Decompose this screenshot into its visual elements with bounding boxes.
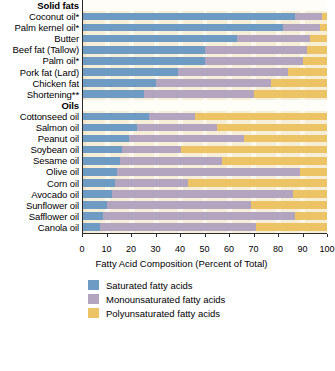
category-label: Palm oil* — [0, 55, 82, 66]
stacked-bar — [83, 168, 327, 176]
bar-row: Avocado oil — [0, 189, 327, 200]
stacked-bar — [83, 24, 327, 32]
category-label: Shortening** — [0, 89, 82, 100]
stacked-bar — [83, 68, 327, 76]
bar-plot-cell — [82, 144, 327, 155]
segment-polyunsaturated — [181, 146, 327, 154]
bar-row: Palm kernel oil* — [0, 22, 327, 33]
category-label: Sesame oil — [0, 155, 82, 166]
segment-saturated — [83, 90, 144, 98]
legend-item: Polyunsaturated fatty acids — [88, 307, 327, 320]
bar-row: Sunflower oil — [0, 200, 327, 211]
segment-polyunsaturated — [300, 168, 327, 176]
segment-monounsaturated — [115, 179, 188, 187]
group-header-label: Oils — [0, 100, 82, 111]
category-label: Olive oil — [0, 166, 82, 177]
category-label: Canola oil — [0, 222, 82, 233]
segment-monounsaturated — [100, 223, 256, 231]
bar-row: Chicken fat — [0, 78, 327, 89]
x-axis-tick-label: 50 — [199, 243, 209, 255]
segment-monounsaturated — [156, 79, 271, 87]
category-label: Palm kernel oil* — [0, 22, 82, 33]
x-axis-tick-label: 90 — [297, 243, 307, 255]
bar-plot-cell — [82, 44, 327, 55]
stacked-bar — [83, 57, 327, 65]
axis-spacer — [0, 233, 82, 243]
bar-plot-cell — [82, 200, 327, 211]
category-label: Coconut oil* — [0, 11, 82, 22]
legend-label: Polyunsaturated fatty acids — [106, 308, 220, 319]
segment-saturated — [83, 79, 156, 87]
category-label: Pork fat (Lard) — [0, 67, 82, 78]
segment-polyunsaturated — [244, 135, 327, 143]
segment-monounsaturated — [129, 135, 244, 143]
bar-plot-cell — [82, 122, 327, 133]
segment-polyunsaturated — [307, 46, 327, 54]
stacked-bar — [83, 157, 327, 165]
x-axis — [0, 233, 327, 243]
bar-row: Cottonseed oil — [0, 111, 327, 122]
segment-monounsaturated — [107, 201, 251, 209]
segment-polyunsaturated — [288, 68, 327, 76]
x-axis-tick — [131, 234, 132, 237]
segment-polyunsaturated — [320, 24, 327, 32]
segment-saturated — [83, 212, 103, 220]
bar-plot-cell — [82, 67, 327, 78]
group-header-plot-cell — [82, 0, 327, 11]
segment-monounsaturated — [112, 190, 293, 198]
legend: Saturated fatty acidsMonounsaturated fat… — [0, 279, 327, 320]
segment-polyunsaturated — [303, 57, 327, 65]
stacked-bar — [83, 223, 327, 231]
segment-saturated — [83, 135, 129, 143]
bar-plot-cell — [82, 189, 327, 200]
x-axis-tick — [327, 234, 328, 237]
segment-polyunsaturated — [271, 79, 327, 87]
segment-saturated — [83, 190, 112, 198]
x-axis-tick — [278, 234, 279, 237]
segment-polyunsaturated — [322, 13, 327, 21]
category-label: Safflower oil — [0, 211, 82, 222]
segment-saturated — [83, 146, 122, 154]
segment-polyunsaturated — [310, 35, 327, 43]
bar-plot-cell — [82, 222, 327, 233]
group-header-row: Solid fats — [0, 0, 327, 11]
bar-row: Canola oil — [0, 222, 327, 233]
segment-polyunsaturated — [254, 90, 327, 98]
bar-plot-cell — [82, 55, 327, 66]
bar-row: Safflower oil — [0, 211, 327, 222]
segment-polyunsaturated — [251, 201, 327, 209]
bar-row: Coconut oil* — [0, 11, 327, 22]
stacked-bar — [83, 13, 327, 21]
bar-plot-cell — [82, 111, 327, 122]
segment-monounsaturated — [283, 24, 320, 32]
bar-row: Soybean oil — [0, 144, 327, 155]
x-axis-tick-label: 40 — [175, 243, 185, 255]
stacked-bar — [83, 46, 327, 54]
segment-monounsaturated — [178, 68, 288, 76]
group-header-row: Oils — [0, 100, 327, 111]
x-axis-tick — [156, 234, 157, 237]
bar-plot-cell — [82, 155, 327, 166]
segment-saturated — [83, 124, 137, 132]
segment-saturated — [83, 201, 107, 209]
bar-row: Salmon oil — [0, 122, 327, 133]
segment-monounsaturated — [205, 57, 303, 65]
segment-saturated — [83, 68, 178, 76]
bar-row: Olive oil — [0, 166, 327, 177]
stacked-bar — [83, 179, 327, 187]
segment-monounsaturated — [117, 168, 300, 176]
segment-monounsaturated — [122, 146, 181, 154]
segment-monounsaturated — [137, 124, 218, 132]
bar-plot-cell — [82, 11, 327, 22]
legend-swatch-icon — [88, 280, 99, 290]
x-axis-tick — [82, 234, 83, 237]
x-axis-tick-label: 10 — [101, 243, 111, 255]
x-axis-tick-label: 20 — [126, 243, 136, 255]
segment-monounsaturated — [237, 35, 310, 43]
bar-row: Beef fat (Tallow) — [0, 44, 327, 55]
bar-plot-cell — [82, 211, 327, 222]
bar-plot-cell — [82, 133, 327, 144]
stacked-bar — [83, 35, 327, 43]
segment-saturated — [83, 24, 283, 32]
x-axis-tick-label: 60 — [224, 243, 234, 255]
